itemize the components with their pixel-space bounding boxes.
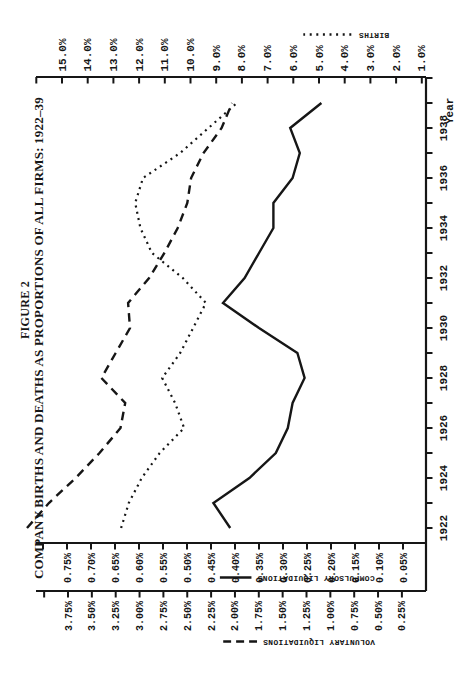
births-tick-label: 2.0% [391, 45, 403, 72]
legend-voluntary-label: VOLUNTARY LIQUIDATIONS [263, 638, 375, 647]
dashed-line-sample [223, 639, 257, 645]
births-tick-label: 13.0% [108, 38, 120, 71]
compulsory-tick-label: 0.65% [111, 553, 122, 583]
births-tick-label: 6.0% [288, 45, 300, 72]
births-tick-label: 5.0% [314, 45, 326, 72]
legend-births: BIRTHS [303, 31, 390, 40]
births-tick-label: 8.0% [236, 45, 248, 72]
year-tick-label: 1924 [438, 464, 450, 491]
series-voluntary-liquidations [27, 103, 232, 528]
compulsory-tick-label: 0.75% [63, 553, 74, 583]
year-tick-label: 1936 [438, 165, 450, 191]
births-tick-label: 7.0% [262, 45, 274, 72]
legend-compulsory-label: COMPULSORY LIQUIDATIONS [257, 574, 374, 583]
compulsory-tick-label: 0.05% [399, 553, 410, 583]
year-tick-label: 1928 [438, 364, 450, 391]
births-tick-label: 10.0% [185, 38, 197, 71]
births-tick-label: 9.0% [211, 45, 223, 72]
voluntary-tick-label: 1.75% [254, 601, 265, 631]
births-tick-label: 11.0% [159, 38, 171, 71]
year-tick-label: 1926 [438, 415, 450, 441]
births-tick-label: 3.0% [365, 45, 377, 72]
year-tick-label: 1932 [438, 265, 450, 291]
compulsory-tick-label: 0.50% [183, 553, 194, 583]
births-tick-label: 14.0% [82, 38, 94, 71]
compulsory-tick-label: 0.45% [207, 553, 218, 583]
voluntary-tick-label: 3.00% [135, 601, 146, 631]
series-compulsory-liquidations [213, 103, 321, 528]
compulsory-tick-label: 0.70% [87, 553, 98, 583]
year-tick-label: 1934 [438, 214, 450, 241]
legend-births-label: BIRTHS [359, 31, 390, 40]
year-tick-label: 1922 [438, 515, 450, 541]
x-axis-title: Year [444, 98, 456, 124]
voluntary-tick-label: 0.50% [374, 601, 385, 631]
voluntary-tick-label: 0.75% [350, 601, 361, 631]
voluntary-tick-label: 2.00% [230, 601, 241, 631]
compulsory-tick-label: 0.60% [135, 553, 146, 583]
voluntary-tick-label: 2.25% [207, 601, 218, 631]
voluntary-tick-label: 2.50% [183, 601, 194, 631]
rotated-chart: FIGURE 2 COMPANY BIRTHS AND DEATHS AS PR… [0, 0, 470, 678]
voluntary-tick-label: 2.75% [159, 601, 170, 631]
series-births [121, 103, 237, 528]
year-tick-label: 1930 [438, 315, 450, 341]
births-tick-label: 15.0% [57, 38, 69, 71]
voluntary-tick-label: 1.50% [278, 601, 289, 631]
compulsory-tick-label: 0.55% [159, 553, 170, 583]
compulsory-tick-label: 0.10% [375, 553, 386, 583]
legend-voluntary: VOLUNTARY LIQUIDATIONS [223, 638, 375, 647]
voluntary-tick-label: 0.25% [397, 601, 408, 631]
legend-compulsory: COMPULSORY LIQUIDATIONS [219, 574, 374, 583]
voluntary-tick-label: 1.25% [302, 601, 313, 631]
dotted-line-sample [303, 32, 353, 38]
voluntary-tick-label: 1.00% [326, 601, 337, 631]
voluntary-tick-label: 3.25% [111, 601, 122, 631]
figure-page: FIGURE 2 COMPANY BIRTHS AND DEATHS AS PR… [0, 0, 470, 678]
voluntary-tick-label: 3.75% [64, 601, 75, 631]
births-tick-label: 12.0% [134, 38, 146, 71]
voluntary-tick-label: 3.50% [87, 601, 98, 631]
births-tick-label: 1.0% [416, 45, 428, 72]
births-tick-label: 4.0% [339, 45, 351, 72]
solid-line-sample [219, 575, 251, 581]
